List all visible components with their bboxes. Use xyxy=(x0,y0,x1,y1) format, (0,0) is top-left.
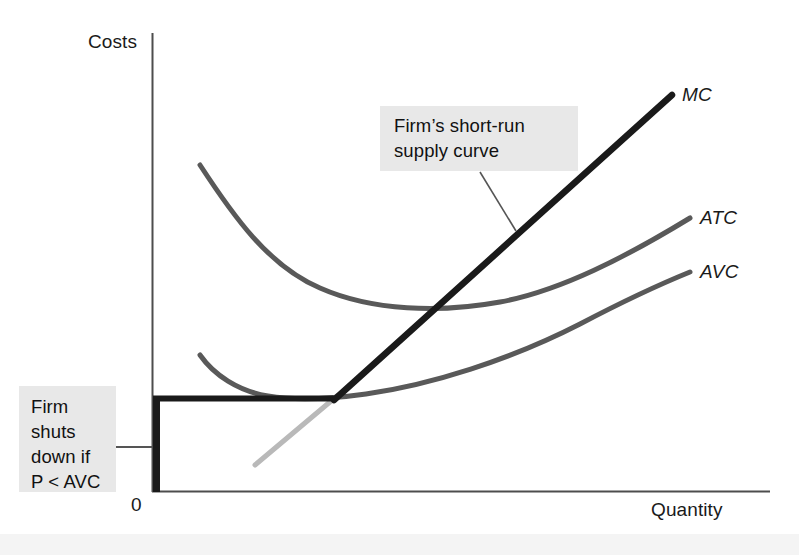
shutdown-callout-line-1: Firm xyxy=(31,394,116,419)
mc-curve-label: MC xyxy=(682,84,712,106)
atc-curve xyxy=(200,165,690,308)
short-run-supply-curve-figure: Costs Quantity 0 MC ATC AVC Firm’s short… xyxy=(0,0,799,555)
atc-curve-label: ATC xyxy=(700,207,737,229)
supply-callout-leader-line xyxy=(480,172,516,231)
avc-curve xyxy=(200,272,690,399)
page-scan-artifact-band xyxy=(0,534,799,555)
origin-label: 0 xyxy=(131,494,142,516)
shutdown-callout-line-4: P < AVC xyxy=(31,469,116,494)
avc-curve-label: AVC xyxy=(700,261,739,283)
supply-callout-line-1: Firm’s short-run xyxy=(394,113,578,138)
supply-callout-line-2: supply curve xyxy=(394,138,578,163)
x-axis-label: Quantity xyxy=(651,499,723,521)
y-axis-label: Costs xyxy=(88,31,137,53)
mc-faded-below-shutdown xyxy=(255,396,337,465)
shutdown-callout-line-3: down if xyxy=(31,444,116,469)
shutdown-callout-line-2: shuts xyxy=(31,419,116,444)
supply-curve-callout: Firm’s short-run supply curve xyxy=(380,106,578,171)
shutdown-condition-callout: Firm shuts down if P < AVC xyxy=(19,386,116,492)
chart-canvas xyxy=(0,0,799,555)
